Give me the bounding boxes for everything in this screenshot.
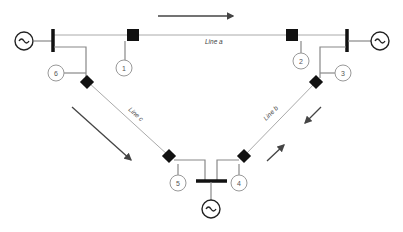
- flow-arrow-line-b-out: [267, 145, 284, 161]
- line-a-label: Line a: [205, 38, 223, 45]
- svg-text:2: 2: [299, 58, 303, 65]
- breaker-2: [286, 29, 298, 41]
- node-5: 5: [170, 175, 186, 191]
- power-system-diagram: Line a Line c Line b 6 1 2 3: [0, 0, 403, 232]
- svg-text:6: 6: [54, 70, 58, 77]
- flow-arrow-line-c: [72, 107, 131, 160]
- svg-text:1: 1: [122, 65, 126, 72]
- breaker-diamond-6: [80, 75, 94, 89]
- node-2: 2: [293, 53, 309, 69]
- line-b: [244, 82, 316, 156]
- flow-arrow-line-b-in: [305, 107, 321, 123]
- node-1: 1: [116, 60, 132, 76]
- breaker-1: [127, 29, 139, 41]
- line-b-label: Line b: [262, 104, 280, 122]
- svg-text:3: 3: [341, 70, 345, 77]
- node-4: 4: [231, 175, 247, 191]
- node-3: 3: [335, 65, 351, 81]
- node-6: 6: [48, 65, 64, 81]
- svg-text:4: 4: [237, 180, 241, 187]
- line-c: [88, 82, 169, 156]
- svg-text:5: 5: [176, 180, 180, 187]
- generator-bottom-icon: [202, 200, 220, 218]
- generator-right-icon: [371, 32, 389, 50]
- generator-left-icon: [15, 32, 33, 50]
